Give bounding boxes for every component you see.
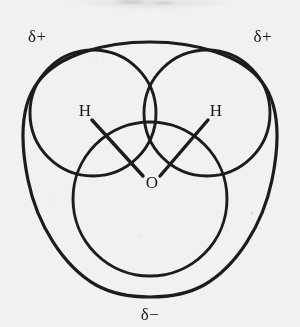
diagram-canvas: δ+ δ+ δ− H H O (0, 0, 300, 327)
label-delta-plus-right: δ+ (253, 27, 272, 46)
label-hydrogen-left: H (79, 101, 91, 120)
oxygen-lobe (73, 122, 227, 276)
water-molecule-diagram: δ+ δ+ δ− H H O (0, 0, 300, 327)
hydrogen-lobe-left (30, 50, 156, 176)
label-hydrogen-right: H (210, 101, 222, 120)
label-delta-plus-left: δ+ (28, 27, 47, 46)
hydrogen-lobe-right (144, 50, 270, 176)
label-delta-minus-bottom: δ− (141, 305, 160, 324)
label-oxygen: O (146, 173, 158, 192)
electron-cloud-envelope (23, 42, 277, 297)
